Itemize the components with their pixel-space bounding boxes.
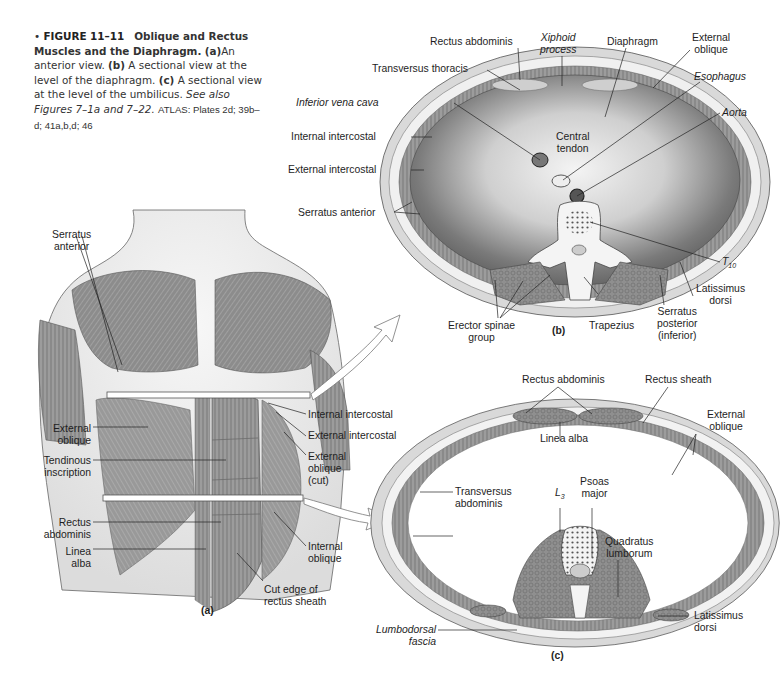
label-a-linea-alba: Lineaalba [40, 546, 91, 570]
label-b-transversus-thoracis: Transversus thoracis [372, 63, 468, 75]
panel-c-label: (c) [551, 650, 564, 662]
label-a-serratus-anterior: Serratusanterior [52, 229, 91, 253]
label-a-tendinous-inscription: Tendinousinscription [30, 455, 91, 479]
label-a-internal-oblique: Internaloblique [308, 541, 343, 565]
label-c-transversus-abdominis: Transversusabdominis [455, 486, 512, 510]
label-b-diaphragm: Diaphragm [607, 36, 658, 48]
label-c-psoas-major: Psoasmajor [580, 476, 609, 500]
label-a-rectus-abdominis: Rectusabdominis [30, 517, 91, 541]
label-a-external-oblique: Externaloblique [40, 423, 91, 447]
label-b-central-tendon: Centraltendon [556, 131, 590, 155]
label-b-trapezius: Trapezius [589, 320, 634, 332]
label-a-internal-intercostal: Internal intercostal [308, 409, 393, 421]
label-b-aorta: Aorta [722, 107, 747, 119]
label-b-internal-intercostal: Internal intercostal [291, 131, 376, 143]
panel-b-label: (b) [552, 325, 565, 337]
label-a-external-oblique-cut: Externaloblique(cut) [308, 451, 346, 487]
label-c-lumbodorsal-fascia: Lumbodorsalfascia [370, 624, 436, 648]
label-b-serratus-posterior: Serratusposterior(inferior) [657, 306, 697, 342]
panel-a-label: (a) [201, 605, 214, 617]
label-b-inferior-vena-cava: Inferior vena cava [296, 97, 379, 109]
label-c-quadratus-lumborum: Quadratuslumborum [605, 536, 654, 560]
label-a-external-intercostal: External intercostal [308, 430, 396, 442]
label-b-xiphoid-process: Xiphoidprocess [540, 32, 576, 56]
label-c-external-oblique: Externaloblique [707, 409, 745, 433]
label-b-rectus-abdominis: Rectus abdominis [430, 36, 513, 48]
label-b-erector-spinae: Erector spinaegroup [448, 320, 515, 344]
label-c-rectus-abdominis: Rectus abdominis [522, 374, 605, 386]
label-c-linea-alba: Linea alba [540, 433, 588, 445]
label-b-t10: T10 [722, 256, 736, 272]
label-b-external-oblique: Externaloblique [692, 32, 730, 56]
label-b-latissimus-dorsi: Latissimusdorsi [696, 283, 745, 307]
label-b-serratus-anterior: Serratus anterior [298, 207, 375, 219]
label-c-rectus-sheath: Rectus sheath [645, 374, 711, 386]
label-b-esophagus: Esophagus [694, 71, 746, 83]
section-diaphragm [380, 47, 770, 318]
label-c-latissimus-dorsi: Latissimusdorsi [694, 610, 743, 634]
label-c-l3: L3 [555, 487, 565, 503]
label-a-cut-edge: Cut edge ofrectus sheath [264, 584, 326, 608]
label-b-external-intercostal: External intercostal [288, 164, 376, 176]
